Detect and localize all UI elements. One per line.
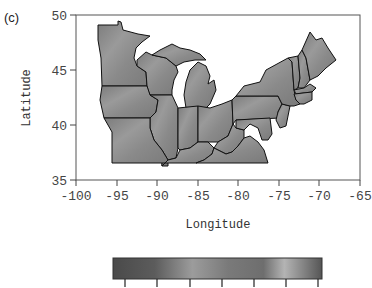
- state-polygons: [98, 21, 336, 166]
- state-minnesota: [98, 21, 150, 86]
- svg-text:50: 50: [51, 9, 67, 24]
- svg-text:45: 45: [51, 64, 67, 79]
- y-tick-labels: 50 45 40 35: [51, 9, 67, 189]
- svg-text:-95: -95: [105, 189, 128, 204]
- svg-text:-70: -70: [307, 189, 330, 204]
- state-michigan-lp: [184, 62, 216, 108]
- colorbar-ticks: [125, 279, 318, 287]
- svg-text:-80: -80: [226, 189, 249, 204]
- x-tick-labels: -100 -95 -90 -85 -80 -75 -70 -65: [60, 189, 371, 204]
- svg-text:-100: -100: [60, 189, 91, 204]
- svg-text:-65: -65: [348, 189, 371, 204]
- svg-text:-90: -90: [145, 189, 168, 204]
- svg-text:-75: -75: [267, 189, 290, 204]
- svg-text:-85: -85: [186, 189, 209, 204]
- x-axis: [76, 180, 360, 186]
- colorbar: [113, 258, 322, 287]
- state-indiana: [178, 106, 198, 150]
- svg-text:40: 40: [51, 119, 67, 134]
- map-plot: 50 45 40 35 -100 -95 -90 -85 -80 -75 -70…: [0, 0, 372, 288]
- svg-text:35: 35: [51, 174, 67, 189]
- y-axis: [70, 15, 76, 180]
